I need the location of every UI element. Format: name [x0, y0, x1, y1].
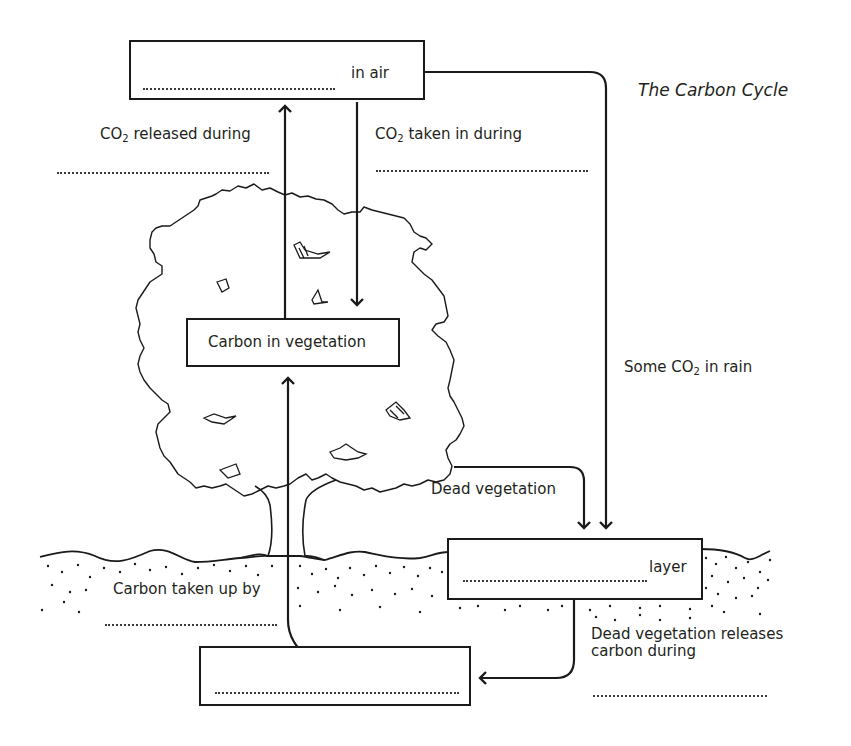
vegetation-box-label: Carbon in vegetation	[208, 333, 366, 351]
layer-box: layer	[447, 538, 703, 600]
co2-taken-in-label: CO2 taken in during	[375, 125, 522, 143]
co2-rain-label: Some CO2 in rain	[624, 358, 752, 376]
carbon-taken-up-answer-blank[interactable]	[105, 624, 277, 626]
co2-released-label: CO2 released during	[100, 125, 251, 143]
dead-releases-label: Dead vegetation releases carbon during	[591, 626, 791, 660]
dead-releases-line2: carbon during	[591, 643, 791, 660]
air-answer-blank[interactable]	[143, 88, 335, 90]
arrow-decomposition	[480, 600, 574, 678]
dead-releases-answer-blank[interactable]	[593, 695, 767, 697]
bottom-answer-box	[199, 646, 471, 706]
vegetation-box: Carbon in vegetation	[186, 318, 400, 367]
dead-releases-line1: Dead vegetation releases	[591, 626, 791, 643]
air-box: in air	[129, 40, 425, 100]
layer-box-label: layer	[649, 558, 687, 576]
co2-taken-in-answer-blank[interactable]	[376, 170, 588, 172]
air-box-label: in air	[351, 64, 389, 82]
bottom-answer-blank[interactable]	[215, 692, 459, 694]
layer-answer-blank[interactable]	[463, 580, 647, 582]
arrow-root-uptake	[288, 378, 312, 664]
diagram-title: The Carbon Cycle	[638, 80, 788, 100]
co2-released-answer-blank[interactable]	[57, 172, 269, 174]
carbon-taken-up-label: Carbon taken up by	[113, 580, 261, 598]
dead-vegetation-label: Dead vegetation	[431, 480, 556, 498]
